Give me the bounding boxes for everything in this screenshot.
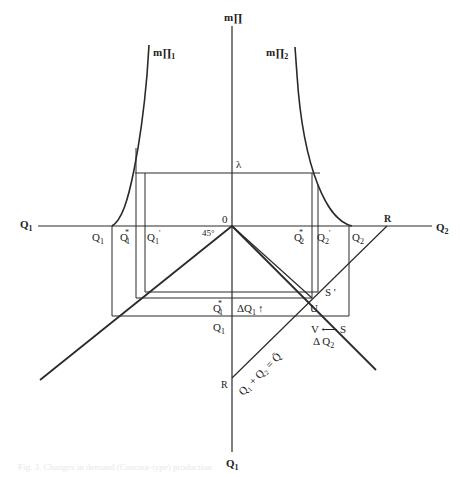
r-top-label: R xyxy=(384,213,392,224)
delta-q2-label: Δ Q2 xyxy=(313,335,334,350)
angle-label: 45° xyxy=(202,228,215,238)
curve-m-pi-1 xyxy=(112,45,149,226)
horizontal-left-label: Q1 xyxy=(20,218,33,233)
q1-prime-tick-label: Q1' xyxy=(147,229,161,246)
vertical-top-label: m∏ xyxy=(224,11,242,24)
diagram-canvas: m∏ m∏1 m∏2 λ Q1 Q2 0 45° Q1 Q*1 Q1' Q*2 … xyxy=(0,0,460,477)
v-from-s-label: V ⟵ S xyxy=(311,323,346,335)
q2-star-tick-label: Q*2 xyxy=(294,228,304,246)
q1-tick-label: Q1 xyxy=(92,231,104,246)
q2-tick-label: Q2 xyxy=(352,231,364,246)
curve-right-label: m∏2 xyxy=(266,46,288,61)
q1-star-tick-label: Q*1 xyxy=(120,228,130,246)
origin-label: 0 xyxy=(222,213,228,225)
curve-left-label: m∏1 xyxy=(153,46,175,61)
delta-q1-label: ΔQ1↑ xyxy=(237,302,264,317)
r-bottom-label: R xyxy=(221,379,228,390)
u-label: U xyxy=(310,302,318,314)
budget-line-label: Q₁ + Q₂ = Q̄ xyxy=(236,350,283,397)
figure-caption: Fig. 3. Changes in demand (Cournot-type)… xyxy=(18,462,212,472)
q2-prime-tick-label: Q2' xyxy=(317,229,331,246)
q1-lower-label: Q1 xyxy=(213,321,225,336)
curve-m-pi-2 xyxy=(295,47,352,226)
s-prime-label: S ' xyxy=(325,286,336,298)
vertical-bottom-label: Q1 xyxy=(226,457,239,472)
q1-star-lower-label: Q*1 xyxy=(213,299,223,317)
horizontal-right-label: Q2 xyxy=(436,221,449,236)
lambda-label: λ xyxy=(236,158,242,170)
